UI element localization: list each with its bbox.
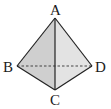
tetrahedron-diagram: A B D C bbox=[0, 0, 111, 109]
vertex-label-b: B bbox=[3, 59, 13, 75]
face-acd bbox=[55, 18, 92, 90]
vertex-label-a: A bbox=[50, 2, 61, 18]
vertex-label-d: D bbox=[95, 59, 106, 75]
vertex-label-c: C bbox=[50, 92, 60, 108]
face-abc bbox=[17, 18, 55, 90]
